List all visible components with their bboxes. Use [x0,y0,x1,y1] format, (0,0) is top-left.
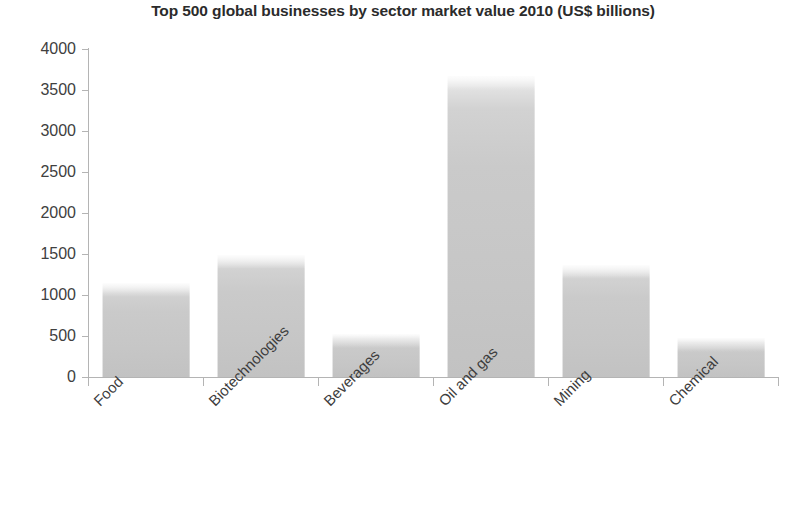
y-axis-tick-label: 500 [6,327,76,345]
y-axis-tick-label: 0 [6,368,76,386]
chart-title: Top 500 global businesses by sector mark… [0,2,806,20]
y-axis-tick-label: 2000 [6,204,76,222]
y-axis-tick-label: 2500 [6,163,76,181]
x-axis-tick [88,378,89,386]
x-axis-tick [203,378,204,386]
bar-food [102,283,190,377]
x-axis-tick [663,378,664,386]
x-axis-tick [778,378,779,386]
x-axis-label-food: Food [90,373,126,409]
y-axis-tick-label: 3000 [6,122,76,140]
y-axis-tick-label: 4000 [6,40,76,58]
bar-oil-and-gas [447,76,535,377]
x-axis-tick [548,378,549,386]
bars-container [88,49,778,377]
y-axis-tick-label: 3500 [6,81,76,99]
y-axis-tick-label: 1000 [6,286,76,304]
x-axis-tick [433,378,434,386]
x-axis-tick [318,378,319,386]
bar-mining [562,265,650,377]
bar-chart: Top 500 global businesses by sector mark… [0,0,806,516]
y-axis-tick-label: 1500 [6,245,76,263]
